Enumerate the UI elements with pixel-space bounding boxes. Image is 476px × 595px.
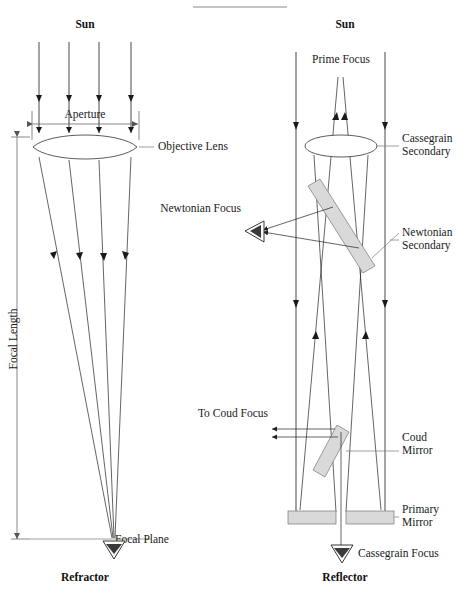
objective-lens-label: Objective Lens (158, 140, 228, 153)
refractor-converging-rays (39, 157, 131, 538)
newtonian-secondary-label-line1: Newtonian (402, 226, 453, 238)
objective-lens (33, 135, 137, 159)
coude-focus-label: To Coud Focus (198, 407, 269, 419)
telescope-diagram-figure: Aperture Objective Lens Focal Length Foc… (0, 0, 476, 595)
newtonian-secondary-leader (372, 233, 399, 258)
newtonian-eyepiece-icon (245, 221, 264, 242)
cassegrain-secondary-mirror (305, 135, 377, 157)
primary-mirror-label-line2: Mirror (402, 516, 433, 528)
primary-mirror-label-line1: Primary (402, 503, 439, 516)
cassegrain-eyepiece-icon (331, 545, 353, 563)
coude-mirror-label-line1: Coud (402, 431, 427, 443)
focal-length-label: Focal Length (7, 308, 20, 369)
refractor-caption: Refractor (61, 571, 109, 583)
reflector-caption: Reflector (322, 571, 367, 583)
newtonian-focus-label: Newtonian Focus (160, 202, 241, 214)
prime-focus-label: Prime Focus (312, 53, 370, 65)
coude-mirror-label-line2: Mirror (402, 444, 433, 456)
refractor-eyepiece-icon (103, 541, 125, 559)
reflector-sun-label: Sun (335, 18, 355, 30)
refractor-sun-label: Sun (75, 18, 95, 30)
cassegrain-focus-label: Cassegrain Focus (358, 547, 439, 560)
cassegrain-secondary-label-line2: Secondary (402, 145, 451, 158)
newtonian-secondary-label-line2: Secondary (402, 239, 451, 252)
cassegrain-secondary-label-line1: Cassegrain (402, 132, 453, 145)
coude-output-rays (272, 429, 338, 437)
aperture-label: Aperture (65, 108, 106, 121)
